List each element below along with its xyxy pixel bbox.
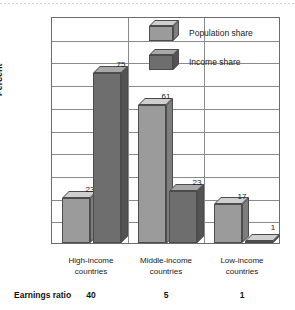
bar-front-face (169, 191, 197, 243)
legend-swatch-side (173, 20, 179, 41)
bar-population-high-income[interactable] (62, 198, 90, 243)
bar-front-face (214, 204, 242, 243)
category-label-line2: countries (49, 267, 133, 278)
earnings-ratio-value-low-income: 1 (222, 290, 262, 300)
bar-front-face (62, 198, 90, 243)
bar-value-label: 61 (152, 92, 180, 101)
earnings-ratio-label: Earnings ratio (14, 290, 71, 300)
bar-front-face (138, 105, 166, 244)
category-label-middle-income: Middle-income countries (124, 256, 208, 277)
legend-swatch-face (149, 26, 173, 41)
scan-artifact-line (0, 3, 295, 4)
legend-swatch-face (149, 55, 173, 70)
earnings-ratio-value-middle-income: 5 (146, 290, 186, 300)
bar-side-face (197, 184, 204, 243)
plot-area: 23 75 61 23 17 (51, 17, 280, 244)
category-label-high-income: High-income countries (49, 256, 133, 277)
category-label-line1: High-income (49, 256, 133, 267)
chart-figure: Percent 100 90 80 70 60 50 40 30 20 10 0 (0, 0, 295, 310)
legend-swatch-population-share (149, 26, 173, 41)
bar-income-high-income[interactable] (93, 73, 121, 243)
bar-side-face (121, 66, 128, 243)
category-label-line1: Low-income (200, 256, 284, 267)
legend-swatch-income-share (149, 55, 173, 70)
bar-population-low-income[interactable] (214, 204, 242, 243)
bar-value-label: 17 (228, 192, 256, 201)
category-label-line2: countries (124, 267, 208, 278)
category-label-low-income: Low-income countries (200, 256, 284, 277)
bar-front-face (245, 241, 273, 243)
bar-income-middle-income[interactable] (169, 191, 197, 243)
bar-value-label: 1 (259, 223, 287, 232)
legend-label: Income share (189, 57, 241, 67)
group-separator-1 (128, 18, 129, 243)
bar-population-middle-income[interactable] (138, 105, 166, 244)
gridline-70 (52, 86, 279, 87)
legend-label: Population share (189, 28, 253, 38)
bar-value-label: 75 (107, 60, 135, 69)
group-separator-2 (204, 18, 205, 243)
bar-income-low-income[interactable] (245, 241, 273, 243)
bar-value-label: 23 (183, 178, 211, 187)
bar-front-face (93, 73, 121, 243)
category-label-line2: countries (200, 267, 284, 278)
y-axis-title: Percent (0, 63, 4, 96)
legend-swatch-side (173, 49, 179, 70)
earnings-ratio-value-high-income: 40 (71, 290, 111, 300)
category-label-line1: Middle-income (124, 256, 208, 267)
